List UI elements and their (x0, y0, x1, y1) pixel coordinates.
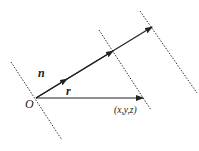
label-position-r: r (66, 84, 71, 98)
plane-vector-diagram: n r O (x,y,z) (0, 0, 199, 151)
label-normal-n: n (38, 66, 45, 80)
label-origin-o: O (25, 97, 34, 111)
normal-vector-n-mid-arrow (36, 79, 67, 98)
plane-left (11, 62, 62, 140)
plane-right (140, 11, 197, 93)
normal-vector-n-plane-arrow (67, 51, 113, 79)
label-point-xyz: (x,y,z) (114, 105, 137, 116)
